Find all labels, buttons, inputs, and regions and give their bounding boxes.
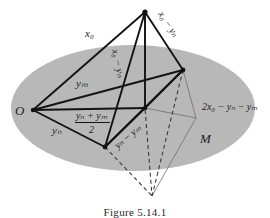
- figure-caption: Figure 5.14.1: [0, 206, 270, 218]
- label-origin-O: O: [15, 103, 25, 118]
- fraction-denominator: 2: [89, 124, 94, 135]
- label-region-M: M: [199, 131, 212, 146]
- label-ym: yₘ: [75, 77, 88, 89]
- label-yn: yₙ: [51, 124, 62, 136]
- geometry-diagram: O M x₀ x₀ − yₙ x₀ − yₙ yₘ yₙ yₙ − yₘ 2x₀…: [0, 0, 270, 218]
- figure-root: O M x₀ x₀ − yₙ x₀ − yₙ yₘ yₙ yₙ − yₘ 2x₀…: [0, 0, 270, 218]
- fraction-numerator: yₙ + yₘ: [75, 110, 108, 121]
- label-two-x0-minus-yn-minus-ym: 2x₀ − yₙ − yₘ: [202, 101, 258, 112]
- label-x0: x₀: [84, 27, 94, 39]
